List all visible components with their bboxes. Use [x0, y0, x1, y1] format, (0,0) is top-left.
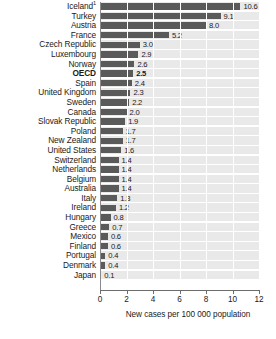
- row-band: [100, 271, 259, 281]
- bar-value-label: 1.7: [126, 136, 136, 146]
- x-axis-title: New cases per 100 000 population: [100, 310, 276, 319]
- bar: [100, 90, 130, 96]
- bar-value-label: 2.5: [136, 69, 146, 79]
- bar-value-label: 0.6: [111, 232, 121, 242]
- plot-cell: 3.0: [100, 40, 276, 50]
- plot-cell: 1.4: [100, 175, 276, 185]
- bar-value-label: 10.6: [243, 2, 257, 12]
- bar: [100, 147, 121, 153]
- bar-value-label: 1.4: [122, 156, 132, 166]
- plot-cell: 5.2: [100, 31, 276, 41]
- x-axis-tick: [180, 291, 181, 294]
- bar: [100, 233, 108, 239]
- bar-value-label: 3.0: [143, 40, 153, 50]
- chart-row: Japan0.1: [0, 271, 276, 281]
- x-axis-tick-label: 2: [124, 295, 129, 305]
- chart-row: Czech Republic3.0: [0, 40, 276, 50]
- bar: [100, 205, 116, 211]
- chart-row: Portugal0.4: [0, 251, 276, 261]
- bar: [100, 109, 127, 115]
- bar: [100, 42, 140, 48]
- bar: [100, 61, 134, 67]
- bar-value-label: 0.6: [111, 242, 121, 252]
- row-band: [100, 261, 259, 271]
- plot-cell: 1.6: [100, 146, 276, 156]
- chart-row: Australia1.4: [0, 184, 276, 194]
- bar-value-label: 1.4: [122, 165, 132, 175]
- plot-cell: 0.4: [100, 261, 276, 271]
- x-axis-tick-label: 8: [204, 295, 209, 305]
- plot-cell: 1.4: [100, 156, 276, 166]
- plot-cell: 1.9: [100, 117, 276, 127]
- bar: [100, 157, 119, 163]
- chart-row: United States1.6: [0, 146, 276, 156]
- bar-value-label: 1.4: [122, 175, 132, 185]
- bar-value-label: 2.9: [141, 50, 151, 60]
- bar: [100, 13, 221, 19]
- bar-value-label: 1.3: [120, 194, 130, 204]
- bar: [100, 176, 119, 182]
- x-axis-tick-label: 12: [254, 295, 263, 305]
- plot-cell: 8.0: [100, 21, 276, 31]
- chart-row: Hungary0.8: [0, 213, 276, 223]
- chart-row: Ireland1.2: [0, 203, 276, 213]
- bar-value-label: 1.2: [119, 203, 129, 213]
- bar: [100, 118, 125, 124]
- chart-row: United Kingdom2.3: [0, 88, 276, 98]
- plot-cell: 1.4: [100, 165, 276, 175]
- footnote-marker: 1: [93, 0, 96, 6]
- bar: [100, 224, 109, 230]
- row-band: [100, 242, 259, 252]
- bar-value-label: 2.6: [137, 60, 147, 70]
- bar: [100, 51, 138, 57]
- x-axis-tick-label: 0: [98, 295, 103, 305]
- bar-value-label: 1.4: [122, 184, 132, 194]
- chart-row: OECD2.5: [0, 69, 276, 79]
- chart-row: Luxembourg2.9: [0, 50, 276, 60]
- bar: [100, 32, 169, 38]
- plot-cell: 0.6: [100, 232, 276, 242]
- bar-value-label: 0.1: [104, 271, 114, 281]
- x-axis: 024681012 New cases per 100 000 populati…: [100, 290, 276, 339]
- bar: [100, 262, 105, 268]
- bar: [100, 22, 206, 28]
- row-band: [100, 136, 259, 146]
- chart-row: Iceland110.6: [0, 2, 276, 12]
- bar: [100, 185, 119, 191]
- x-axis-tick: [127, 291, 128, 294]
- bar: [100, 138, 123, 144]
- chart-row: Italy1.3: [0, 194, 276, 204]
- chart-row: Denmark0.4: [0, 261, 276, 271]
- plot-cell: 1.2: [100, 203, 276, 213]
- plot-cell: 2.5: [100, 69, 276, 79]
- x-axis-tick-label: 4: [151, 295, 156, 305]
- plot-cell: 0.8: [100, 213, 276, 223]
- chart-row: Poland1.7: [0, 127, 276, 137]
- plot-cell: 2.4: [100, 79, 276, 89]
- bar-value-label: 0.4: [108, 261, 118, 271]
- x-axis-tick: [259, 291, 260, 294]
- x-axis-tick: [206, 291, 207, 294]
- plot-cell: 9.1: [100, 12, 276, 22]
- bar-value-label: 9.1: [224, 12, 234, 22]
- chart-row: Mexico0.6: [0, 232, 276, 242]
- x-axis-tick-label: 10: [228, 295, 237, 305]
- row-band: [100, 223, 259, 233]
- row-band: [100, 232, 259, 242]
- plot-cell: 2.9: [100, 50, 276, 60]
- plot-cell: 0.7: [100, 223, 276, 233]
- plot-cell: 2.6: [100, 60, 276, 70]
- bar-value-label: 0.8: [114, 213, 124, 223]
- bar-value-label: 1.6: [124, 146, 134, 156]
- bar: [100, 80, 132, 86]
- bar-value-label: 5.2: [172, 31, 182, 41]
- category-label: Japan: [0, 271, 100, 281]
- plot-cell: 1.7: [100, 127, 276, 137]
- bar-value-label: 0.7: [112, 223, 122, 233]
- row-band: [100, 213, 259, 223]
- x-axis-tick: [153, 291, 154, 294]
- plot-cell: 1.7: [100, 136, 276, 146]
- plot-cell: 10.6: [100, 2, 276, 12]
- plot-cell: 2.2: [100, 98, 276, 108]
- chart-row: Finland0.6: [0, 242, 276, 252]
